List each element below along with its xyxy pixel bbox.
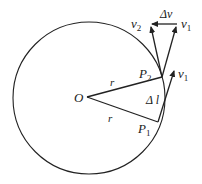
- label-p2: P2: [138, 66, 151, 83]
- label-v2: v2: [131, 16, 141, 33]
- label-delta-v: Δv: [159, 7, 173, 21]
- label-center-o: O: [74, 90, 84, 105]
- label-v1-at-p1: v1: [178, 66, 188, 83]
- v1-vector-at-p1: [158, 71, 174, 122]
- label-delta-l: Δ l: [145, 93, 160, 107]
- v1-vector-translated: [162, 27, 176, 77]
- label-p1: P1: [137, 121, 150, 138]
- label-v1-top: v1: [181, 16, 191, 33]
- velocity-diagram: O r r Δ l P2 P1 v1 v2 v1 Δv: [0, 0, 202, 184]
- v2-vector: [151, 27, 162, 77]
- label-radius-upper: r: [110, 76, 115, 88]
- label-radius-lower: r: [108, 112, 113, 124]
